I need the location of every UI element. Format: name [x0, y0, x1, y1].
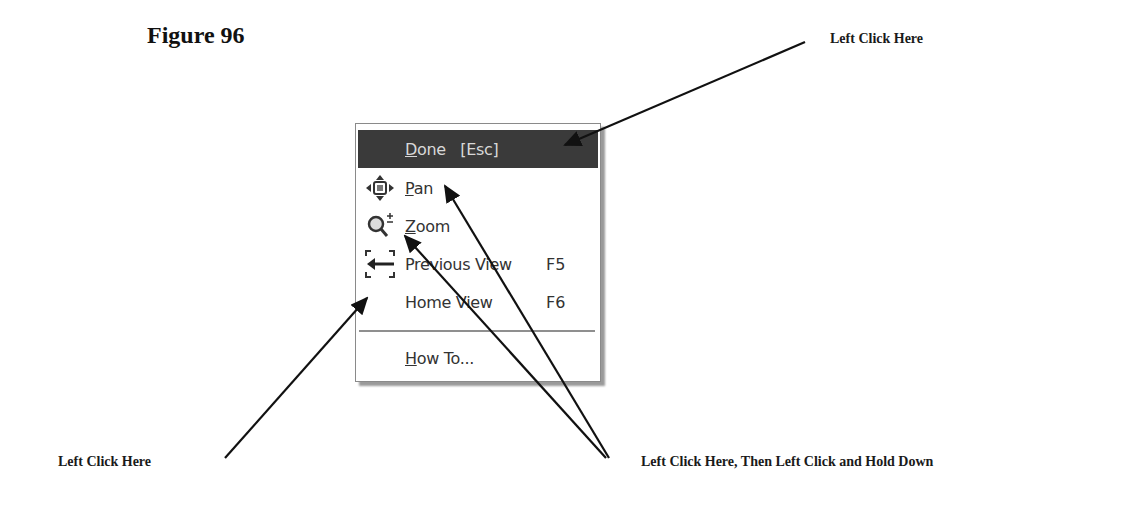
menu-item-label: Done [Esc]: [405, 140, 499, 159]
menu-item-shortcut: F5: [546, 255, 565, 274]
menu-item-label: Pan: [405, 179, 433, 198]
figure-title: Figure 96: [147, 22, 245, 49]
callout-pan-zoom: Left Click Here, Then Left Click and Hol…: [641, 454, 933, 470]
menu-item-shortcut: F6: [546, 293, 565, 312]
magnifier-plus-minus-icon: [360, 211, 400, 241]
arrow-to-done: [565, 42, 805, 145]
menu-item-home-view[interactable]: Home View F6: [358, 284, 598, 320]
previous-view-arrow-icon: [360, 249, 400, 279]
menu-item-pan[interactable]: Pan: [358, 170, 598, 206]
pan-arrows-icon: [360, 173, 400, 203]
menu-item-done[interactable]: Done [Esc]: [358, 130, 598, 168]
menu-item-label: Previous View: [405, 255, 512, 274]
menu-item-zoom[interactable]: Zoom: [358, 208, 598, 244]
arrow-to-home-view: [225, 298, 367, 458]
menu-divider: [359, 330, 595, 332]
callout-home-view: Left Click Here: [58, 454, 151, 470]
context-menu: Done [Esc] Pan Zoom: [355, 123, 601, 382]
menu-item-label: How To...: [405, 349, 474, 368]
callout-done: Left Click Here: [830, 31, 923, 47]
menu-item-label: Home View: [405, 293, 493, 312]
menu-item-how-to[interactable]: How To...: [358, 340, 598, 376]
menu-item-previous-view[interactable]: Previous View F5: [358, 246, 598, 282]
menu-item-label: Zoom: [405, 217, 450, 236]
